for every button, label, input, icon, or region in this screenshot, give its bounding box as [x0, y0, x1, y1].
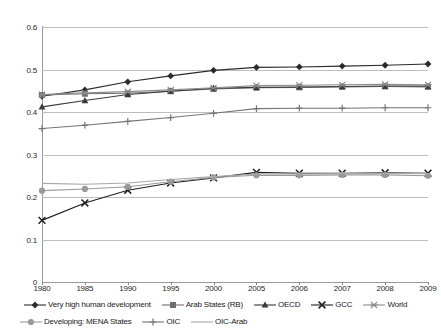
data-point-circle — [39, 188, 45, 194]
y-tick-label: 0.6 — [26, 23, 37, 32]
data-point-plus — [81, 122, 88, 129]
legend-label: Developing: MENA States — [44, 317, 131, 326]
legend-label: Arab States (RB) — [186, 300, 243, 309]
x-tick-label: 2007 — [334, 284, 351, 293]
series-line — [42, 172, 428, 220]
x-tick-label: 1985 — [76, 284, 93, 293]
x-tick-label: 1980 — [34, 284, 51, 293]
legend-label: Very high human development — [48, 300, 151, 309]
data-point-plus — [425, 104, 432, 111]
legend-label: GCC — [335, 300, 352, 309]
y-tick-label: 0.5 — [26, 65, 37, 74]
legend-key-asterisk-icon — [363, 300, 385, 310]
data-point-circle — [82, 186, 88, 192]
gridline — [42, 282, 428, 283]
y-tick-label: 0.1 — [26, 235, 37, 244]
data-point-circle — [210, 174, 216, 180]
data-point-plus — [124, 118, 131, 125]
chart-legend: Very high human developmentArab States (… — [0, 296, 433, 336]
data-point-diamond — [167, 72, 174, 79]
legend-item[interactable]: GCC — [311, 300, 352, 310]
data-point-diamond — [382, 62, 389, 69]
data-point-diamond — [124, 78, 131, 85]
data-point-plus — [39, 125, 46, 132]
data-point-plus — [253, 105, 260, 112]
plot-wrapper: 00.10.20.30.40.50.6 19801985199019952000… — [0, 0, 433, 290]
plot-area — [42, 27, 428, 282]
series-world — [38, 81, 431, 97]
data-point-plus — [150, 318, 157, 325]
data-point-diamond — [32, 301, 39, 308]
x-tick-label: 2000 — [205, 284, 222, 293]
legend-row-2: Developing: MENA StatesOICOIC-Arab — [0, 313, 441, 330]
legend-key-circle-icon — [20, 317, 42, 327]
legend-key-plus-icon — [142, 317, 164, 327]
data-point-plus — [296, 105, 303, 112]
data-point-plus — [339, 105, 346, 112]
legend-item[interactable]: Developing: MENA States — [20, 317, 131, 327]
data-point-circle — [253, 172, 259, 178]
legend-key-triangle-icon — [254, 300, 276, 310]
legend-label: World — [387, 300, 407, 309]
legend-key-line-icon — [191, 317, 213, 327]
series-line — [42, 86, 428, 107]
data-point-diamond — [339, 63, 346, 70]
data-point-diamond — [425, 61, 432, 68]
y-tick-label: 0.3 — [26, 150, 37, 159]
series-oic — [39, 104, 432, 132]
data-point-diamond — [253, 64, 260, 71]
series-line — [42, 64, 428, 96]
legend-item[interactable]: World — [363, 300, 407, 310]
legend-item[interactable]: OECD — [254, 300, 300, 310]
y-tick-label: 0.2 — [26, 193, 37, 202]
series-layer — [42, 27, 428, 282]
y-tick-label: 0.4 — [26, 108, 37, 117]
data-point-plus — [167, 114, 174, 121]
data-point-cross — [39, 217, 46, 224]
data-point-diamond — [296, 64, 303, 71]
legend-item[interactable]: Very high human development — [24, 300, 151, 310]
data-point-circle — [125, 184, 131, 190]
series-gcc — [39, 169, 432, 224]
legend-item[interactable]: OIC — [142, 317, 180, 327]
data-point-cross — [81, 200, 88, 207]
x-tick-label: 2009 — [420, 284, 437, 293]
x-tick-label: 2005 — [248, 284, 265, 293]
legend-label: OIC-Arab — [215, 317, 247, 326]
series-line — [42, 108, 428, 129]
legend-item[interactable]: Arab States (RB) — [162, 300, 243, 310]
legend-row-1: Very high human developmentArab States (… — [0, 296, 441, 313]
legend-key-square-icon — [162, 300, 184, 310]
data-point-circle — [339, 172, 345, 178]
data-point-circle — [296, 172, 302, 178]
data-point-diamond — [210, 67, 217, 74]
legend-key-diamond-icon — [24, 300, 46, 310]
data-point-circle — [28, 318, 34, 324]
y-axis-labels: 00.10.20.30.40.50.6 — [0, 27, 37, 282]
data-point-plus — [210, 110, 217, 117]
legend-item[interactable]: OIC-Arab — [191, 317, 247, 327]
legend-label: OIC — [166, 317, 180, 326]
legend-label: OECD — [278, 300, 300, 309]
x-tick-label: 1990 — [119, 284, 136, 293]
data-point-square — [170, 302, 176, 308]
x-tick-label: 2008 — [377, 284, 394, 293]
x-tick-label: 2006 — [291, 284, 308, 293]
data-point-asterisk — [371, 302, 378, 308]
data-point-plus — [382, 104, 389, 111]
series-line — [42, 175, 428, 191]
x-tick-label: 1995 — [162, 284, 179, 293]
data-point-square — [82, 91, 88, 97]
legend-key-cross-icon — [311, 300, 333, 310]
